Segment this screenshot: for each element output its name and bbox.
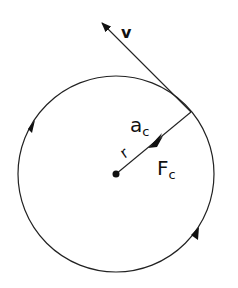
path-direction-arrow-left <box>28 120 35 133</box>
acceleration-label: ac <box>130 113 149 139</box>
velocity-vector <box>102 23 191 112</box>
force-subscript: c <box>169 167 176 182</box>
center-point <box>113 171 120 178</box>
path-direction-arrow-right <box>191 227 199 240</box>
acceleration-subscript: c <box>142 124 149 139</box>
velocity-label: v <box>121 23 132 42</box>
circular-motion-diagram: v ac r Fc <box>0 0 238 288</box>
radius-label: r <box>116 143 132 162</box>
force-label: Fc <box>157 156 176 182</box>
